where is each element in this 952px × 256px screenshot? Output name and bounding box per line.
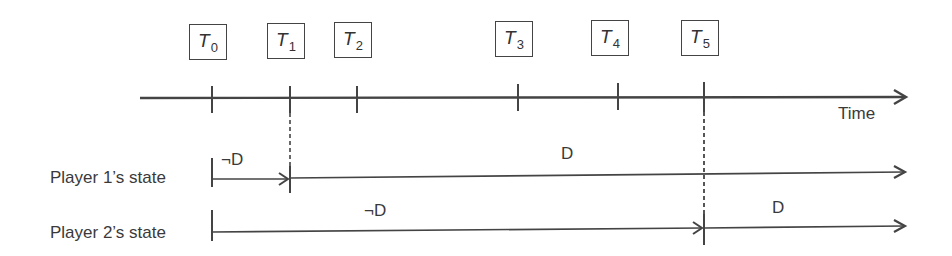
- p2-state-notD: ¬D: [364, 201, 386, 221]
- time-point-subscript: 1: [289, 39, 296, 54]
- time-point-name: T: [600, 26, 612, 47]
- time-point-box-t3: T3: [495, 21, 533, 57]
- p1-segment-D: [290, 172, 904, 178]
- time-point-box-t2: T2: [334, 22, 372, 58]
- time-axis: [140, 97, 904, 98]
- time-point-name: T: [504, 27, 516, 48]
- time-point-name: T: [690, 26, 702, 47]
- time-point-subscript: 0: [211, 40, 218, 55]
- p1-state-D: D: [561, 144, 573, 164]
- time-point-subscript: 2: [356, 38, 363, 53]
- time-point-name: T: [198, 30, 210, 51]
- p1-state-notD: ¬D: [221, 150, 243, 170]
- time-point-name: T: [343, 28, 355, 49]
- time-point-subscript: 3: [517, 37, 524, 52]
- player-1-state-label: Player 1’s state: [50, 168, 166, 188]
- time-point-box-t0: T0: [189, 24, 227, 60]
- p2-state-D: D: [772, 198, 784, 218]
- time-point-subscript: 5: [703, 36, 710, 51]
- time-axis-label: Time: [838, 104, 875, 124]
- time-point-box-t5: T5: [681, 20, 719, 56]
- time-point-box-t4: T4: [591, 20, 629, 56]
- time-point-name: T: [276, 29, 288, 50]
- timeline-diagram: [0, 0, 952, 256]
- time-point-subscript: 4: [613, 36, 620, 51]
- player-2-state-label: Player 2’s state: [50, 223, 166, 243]
- p2-segment-D: [704, 226, 904, 228]
- time-point-box-t1: T1: [267, 23, 305, 59]
- p2-segment-notD: [212, 228, 702, 232]
